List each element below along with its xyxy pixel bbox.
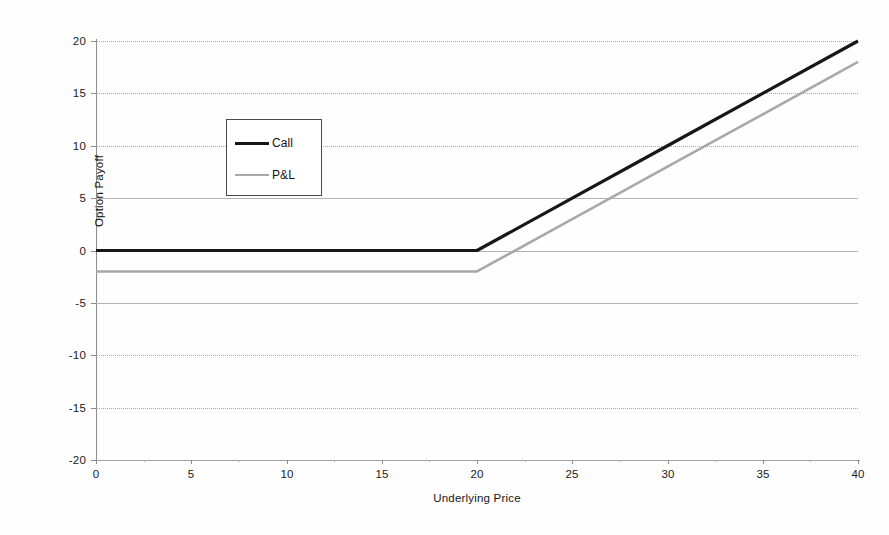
x-minor-tick xyxy=(525,460,526,462)
x-tick-20 xyxy=(477,460,478,464)
x-axis-tick-label: 0 xyxy=(76,468,116,480)
plot-area: Call P&L xyxy=(96,41,858,460)
x-axis-tick-label: 5 xyxy=(171,468,211,480)
x-minor-tick xyxy=(429,460,430,462)
legend-label-pl: P&L xyxy=(272,169,295,181)
series-plot xyxy=(96,41,858,460)
x-tick-40 xyxy=(858,460,859,464)
x-minor-tick xyxy=(239,460,240,462)
series-line-pl xyxy=(96,62,858,272)
y-axis-tick-label: 10 xyxy=(34,140,86,152)
x-tick-0 xyxy=(96,460,97,464)
x-axis-tick-label: 25 xyxy=(552,468,592,480)
y-axis-tick-label: -5 xyxy=(34,297,86,309)
x-minor-tick xyxy=(810,460,811,462)
x-tick-10 xyxy=(287,460,288,464)
x-minor-tick xyxy=(334,460,335,462)
x-axis-tick-label: 10 xyxy=(267,468,307,480)
chart-canvas: Call P&L 20 15 10 5 0 -5 -10 -15 -20 0 5… xyxy=(0,0,889,535)
x-tick-5 xyxy=(191,460,192,464)
y-axis-tick-label: -15 xyxy=(34,402,86,414)
y-axis-tick-label: 20 xyxy=(34,35,86,47)
chart-legend: Call P&L xyxy=(226,119,322,196)
x-tick-25 xyxy=(572,460,573,464)
x-axis-tick-label: 20 xyxy=(457,468,497,480)
legend-item-pl[interactable]: P&L xyxy=(235,168,295,182)
x-tick-30 xyxy=(668,460,669,464)
x-axis-tick-label: 40 xyxy=(838,468,878,480)
x-axis-tick-label: 15 xyxy=(362,468,402,480)
x-minor-tick xyxy=(620,460,621,462)
x-axis-title: Underlying Price xyxy=(96,492,858,504)
x-minor-tick xyxy=(144,460,145,462)
x-axis-tick-label: 35 xyxy=(743,468,783,480)
x-tick-35 xyxy=(763,460,764,464)
legend-item-call[interactable]: Call xyxy=(235,136,293,150)
x-axis-tick-label: 30 xyxy=(648,468,688,480)
x-minor-tick xyxy=(715,460,716,462)
legend-line-swatch-icon xyxy=(235,142,269,145)
legend-line-swatch-icon xyxy=(235,174,269,176)
y-axis-tick-label: -10 xyxy=(34,349,86,361)
series-line-call xyxy=(96,41,858,251)
x-tick-15 xyxy=(382,460,383,464)
y-axis-tick-label: 0 xyxy=(34,245,86,257)
y-axis-tick-label: 15 xyxy=(34,87,86,99)
y-axis-tick-label: -20 xyxy=(34,454,86,466)
y-axis-tick-label: 5 xyxy=(34,192,86,204)
legend-label-call: Call xyxy=(272,137,293,149)
